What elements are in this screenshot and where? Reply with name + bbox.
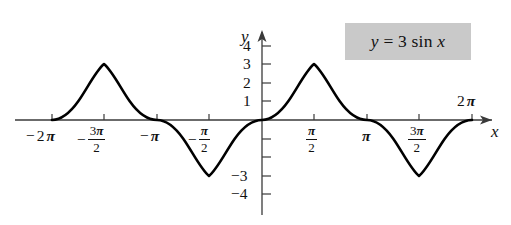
fraction-numerator: π [306, 124, 317, 138]
pi-symbol: π [47, 128, 55, 144]
x-tick-label-pi-over-2: π 2 [306, 125, 317, 155]
x-tick-label-neg-pi: − π [140, 128, 159, 144]
minus-sign: − [140, 128, 149, 144]
x-tick-label-neg-3pi-over-2: − 3π 2 [77, 125, 105, 155]
fraction: π 2 [306, 124, 317, 154]
pi-symbol: π [417, 123, 424, 138]
fraction: π 2 [199, 124, 210, 154]
y-tick-label-1: 1 [243, 93, 251, 109]
x-tick-label-3pi-over-2: 3π 2 [408, 125, 426, 155]
equation-function: sin [412, 31, 433, 51]
equation-text: y = 3 sin x [371, 31, 445, 52]
y-tick-label-neg4: −4 [231, 186, 248, 202]
numeral-2: 2 [37, 128, 45, 144]
pi-symbol: π [151, 128, 159, 144]
minus-sign: − [188, 132, 197, 148]
equation-equals: = [383, 31, 393, 51]
x-tick-label-pi: π [362, 128, 370, 144]
x-axis-label: x [491, 123, 499, 140]
x-tick-label-neg-pi-over-2: − π 2 [188, 125, 210, 155]
y-tick-label-neg3: −3 [231, 168, 248, 184]
y-tick-label-2: 2 [243, 75, 251, 91]
equation-coefficient: 3 [398, 31, 407, 51]
equation-box: y = 3 sin x [345, 23, 471, 60]
y-tick-label-3: 3 [243, 56, 251, 72]
numeral-2: 2 [457, 93, 465, 109]
pi-symbol: π [96, 123, 103, 138]
fraction-numerator: 3π [88, 124, 106, 138]
sine-graph-figure: y x 4 3 2 1 −3 −4 − 2 π − 3π 2 − [0, 0, 511, 225]
minus-sign: − [77, 132, 86, 148]
fraction: 3π 2 [408, 124, 426, 154]
fraction-denominator: 2 [88, 141, 106, 155]
fraction-numerator: 3π [408, 124, 426, 138]
equation-variable: x [437, 31, 445, 51]
fraction-numerator: π [199, 124, 210, 138]
y-axis [258, 30, 267, 215]
x-tick-label-2pi: 2 π [457, 93, 475, 109]
x-tick-label-neg-2pi: − 2 π [26, 128, 55, 144]
fraction-denominator: 2 [199, 141, 210, 155]
pi-symbol: π [467, 93, 475, 109]
minus-sign: − [26, 128, 35, 144]
fraction-denominator: 2 [408, 141, 426, 155]
fraction-denominator: 2 [306, 141, 317, 155]
fraction: 3π 2 [88, 124, 106, 154]
y-tick-label-4: 4 [243, 38, 251, 54]
equation-lhs: y [371, 31, 379, 51]
